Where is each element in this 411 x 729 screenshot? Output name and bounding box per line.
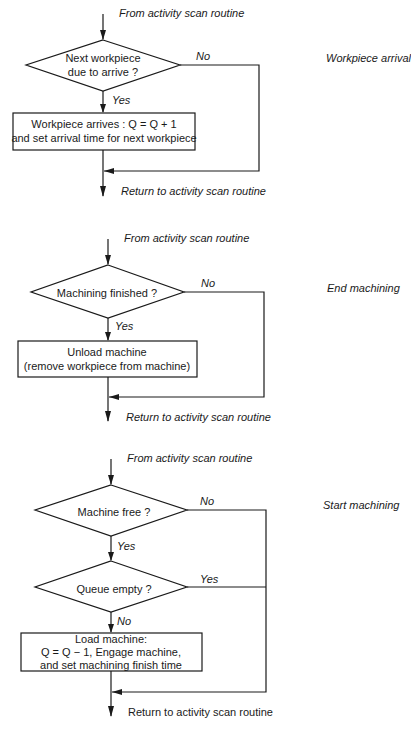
merge-arrowhead xyxy=(112,689,122,695)
section-end-machining xyxy=(18,239,264,422)
merge-arrowhead xyxy=(109,394,119,400)
exit-label: Return to activity scan routine xyxy=(121,185,266,198)
exit-arrowhead xyxy=(105,411,111,422)
decision-line-1: Next workpiece xyxy=(65,51,140,65)
process-line-2: and set arrival time for next workpiece xyxy=(11,131,196,145)
no-label: No xyxy=(196,50,210,63)
yes-arrowhead xyxy=(108,552,114,561)
yes-label-machine-free: Yes xyxy=(117,540,135,553)
entry-arrowhead xyxy=(100,30,106,40)
process-line-2: (remove workpiece from machine) xyxy=(24,359,190,373)
process-text: Unload machine (remove workpiece from ma… xyxy=(24,345,190,373)
process-text: Workpiece arrives : Q = Q + 1 and set ar… xyxy=(11,117,196,145)
decision-text: Machining finished ? xyxy=(57,287,157,300)
side-label-workpiece-arrival: Workpiece arrival xyxy=(326,52,411,65)
entry-label: From activity scan routine xyxy=(127,452,252,465)
decision-machine-free-text: Machine free ? xyxy=(78,506,151,519)
process-line-3: and set machining finish time xyxy=(40,659,182,672)
no-label: No xyxy=(201,277,215,290)
yes-arrowhead xyxy=(100,104,106,113)
exit-arrowhead xyxy=(108,706,114,717)
side-label-start-machining: Start machining xyxy=(323,499,399,512)
entry-arrowhead xyxy=(105,255,111,265)
decision-line-2: due to arrive ? xyxy=(65,65,140,79)
no-label-machine-free: No xyxy=(200,495,214,508)
process-text: Load machine: Q = Q − 1, Engage machine,… xyxy=(40,633,182,672)
entry-arrowhead xyxy=(108,475,114,485)
entry-label: From activity scan routine xyxy=(124,232,249,245)
exit-label: Return to activity scan routine xyxy=(128,706,273,719)
yes-label: Yes xyxy=(112,94,130,107)
no-label-queue-empty: No xyxy=(117,615,131,628)
exit-label: Return to activity scan routine xyxy=(126,411,271,424)
exit-arrowhead xyxy=(100,186,106,197)
yes-arrowhead xyxy=(105,332,111,341)
section-workpiece-arrival xyxy=(13,14,259,197)
yes-label: Yes xyxy=(115,320,133,333)
decision-text: Next workpiece due to arrive ? xyxy=(65,51,140,79)
process-line-1: Workpiece arrives : Q = Q + 1 xyxy=(11,117,196,131)
decision-queue-empty-text: Queue empty ? xyxy=(76,583,151,596)
process-line-1: Unload machine xyxy=(24,345,190,359)
yes-label-queue-empty: Yes xyxy=(200,573,218,586)
entry-label: From activity scan routine xyxy=(119,7,244,20)
process-line-2: Q = Q − 1, Engage machine, xyxy=(40,646,182,659)
merge-arrowhead xyxy=(104,168,114,174)
process-line-1: Load machine: xyxy=(40,633,182,646)
side-label-end-machining: End machining xyxy=(327,282,400,295)
